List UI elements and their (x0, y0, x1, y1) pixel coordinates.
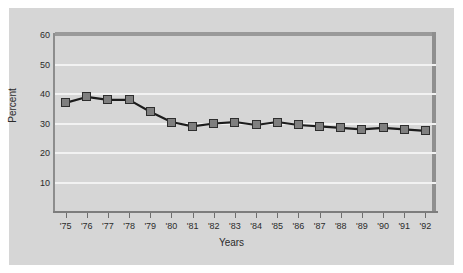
data-point-marker (336, 123, 345, 132)
data-point-marker (315, 122, 324, 131)
data-point-marker (167, 118, 176, 127)
data-point-marker (61, 98, 70, 107)
series-line (0, 0, 463, 273)
data-point-marker (209, 119, 218, 128)
data-point-marker (252, 120, 261, 129)
data-point-marker (103, 95, 112, 104)
data-point-marker (146, 107, 155, 116)
chart-figure: 102030405060 Percent '75'76'77'78'79'80'… (0, 0, 463, 273)
data-point-marker (230, 118, 239, 127)
data-point-marker (188, 122, 197, 131)
data-point-marker (82, 92, 91, 101)
data-point-marker (421, 126, 430, 135)
data-point-marker (357, 125, 366, 134)
data-point-marker (294, 120, 303, 129)
data-point-marker (379, 123, 388, 132)
data-point-marker (400, 125, 409, 134)
data-point-marker (273, 118, 282, 127)
series-polyline (66, 97, 426, 131)
data-point-marker (125, 95, 134, 104)
